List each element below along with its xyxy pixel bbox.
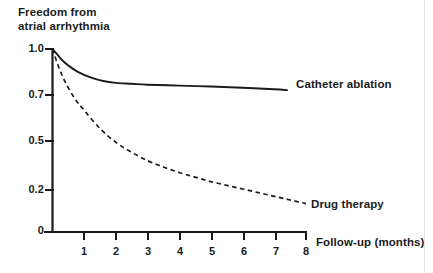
x-tick-label-3: 3 xyxy=(141,245,155,258)
x-axis-title: Follow-up (months) xyxy=(316,236,424,250)
series-label-catheter-ablation: Catheter ablation xyxy=(296,78,392,92)
y-tick-label-0.2: 0.2 xyxy=(18,183,44,196)
x-tick-label-7: 7 xyxy=(269,245,283,258)
x-tick-label-6: 6 xyxy=(237,245,251,258)
y-tick-label-0.7: 0.7 xyxy=(18,88,44,101)
plot-area xyxy=(0,0,433,273)
x-tick-label-1: 1 xyxy=(77,245,91,258)
x-axis-ticks xyxy=(84,232,306,240)
series-line-catheter-ablation xyxy=(53,49,287,90)
x-tick-label-5: 5 xyxy=(205,245,219,258)
series-label-drug-therapy: Drug therapy xyxy=(311,198,384,212)
x-tick-label-8: 8 xyxy=(299,245,313,258)
y-tick-label-1.0: 1.0 xyxy=(18,42,44,55)
axes-group xyxy=(44,48,307,240)
page-edge-rule xyxy=(424,0,425,273)
x-tick-label-4: 4 xyxy=(173,245,187,258)
chart-figure: Freedom from atrial arrhythmia xyxy=(0,0,433,273)
y-tick-label-0.5: 0.5 xyxy=(18,134,44,147)
y-tick-label-0: 0 xyxy=(18,224,44,237)
data-series-group xyxy=(53,49,307,204)
series-line-drug-therapy xyxy=(53,49,307,204)
x-tick-label-2: 2 xyxy=(109,245,123,258)
